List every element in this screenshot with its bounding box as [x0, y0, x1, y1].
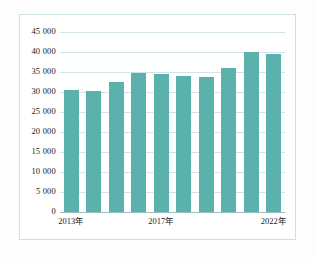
y-tick-label: 20 000 [4, 127, 56, 136]
bar [86, 91, 101, 212]
y-tick-label: 10 000 [4, 167, 56, 176]
bar-chart-figure: 05 00010 00015 00020 00025 00030 00035 0… [0, 0, 316, 258]
bar [199, 77, 214, 212]
y-tick-label: 5 000 [4, 187, 56, 196]
bar [64, 90, 79, 212]
y-tick-label: 30 000 [4, 87, 56, 96]
x-axis-tick-labels: 2013年2017年2022年 [60, 214, 285, 230]
x-tick-label: 2017年 [148, 214, 174, 226]
x-tick-label: 2022年 [261, 214, 287, 226]
bar [131, 73, 146, 212]
y-tick-label: 15 000 [4, 147, 56, 156]
y-tick-label: 40 000 [4, 47, 56, 56]
bar-series [60, 32, 285, 212]
bar [266, 54, 281, 212]
bar [154, 74, 169, 212]
bar [221, 68, 236, 212]
y-tick-label: 25 000 [4, 107, 56, 116]
bar [176, 76, 191, 212]
y-tick-label: 45 000 [4, 27, 56, 36]
y-axis-tick-labels: 05 00010 00015 00020 00025 00030 00035 0… [0, 32, 56, 212]
x-tick-label: 2013年 [58, 214, 84, 226]
plot-area [60, 32, 285, 212]
y-tick-label: 35 000 [4, 67, 56, 76]
bar [109, 82, 124, 212]
bar [244, 52, 259, 212]
y-tick-label: 0 [4, 207, 56, 216]
